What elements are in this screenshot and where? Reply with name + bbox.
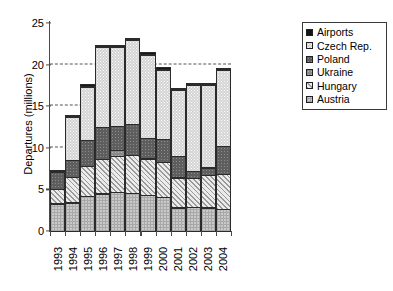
- x-axis-label-text: 2002: [187, 247, 199, 271]
- bar-segment[interactable]: [110, 192, 125, 232]
- bar-segment[interactable]: [125, 40, 140, 125]
- bar-column[interactable]: [50, 23, 65, 231]
- bar-segment[interactable]: [110, 156, 125, 193]
- bar-segment[interactable]: [156, 162, 171, 198]
- bar-segment[interactable]: [95, 127, 110, 160]
- bar-segment[interactable]: [65, 160, 80, 177]
- stacked-bar[interactable]: [140, 49, 155, 231]
- bar-column[interactable]: [171, 23, 186, 231]
- bar-segment[interactable]: [65, 117, 80, 161]
- bar-segment[interactable]: [201, 85, 216, 168]
- x-tick-mark: [50, 231, 65, 236]
- bar-segment[interactable]: [140, 55, 155, 139]
- bar-segment[interactable]: [186, 178, 201, 208]
- bar-segment[interactable]: [95, 194, 110, 232]
- legend-item[interactable]: Austria: [306, 92, 383, 105]
- x-axis-label: 2001: [171, 237, 186, 287]
- bar-column[interactable]: [65, 23, 80, 231]
- bar-segment[interactable]: [156, 197, 171, 232]
- stacked-bar[interactable]: [186, 80, 201, 231]
- bar-segment[interactable]: [140, 138, 155, 160]
- bar-segment[interactable]: [186, 85, 201, 172]
- bar-segment[interactable]: [140, 159, 155, 196]
- stacked-bar[interactable]: [125, 35, 140, 231]
- bar-segment[interactable]: [110, 47, 125, 127]
- x-axis-label-text: 1993: [52, 247, 64, 271]
- x-axis-label: 1995: [80, 237, 95, 287]
- bar-segment[interactable]: [201, 175, 216, 208]
- bar-column[interactable]: [140, 23, 155, 231]
- bar-segment[interactable]: [140, 195, 155, 232]
- stacked-bar[interactable]: [171, 85, 186, 231]
- bar-segment[interactable]: [80, 196, 95, 232]
- legend-item[interactable]: Poland: [306, 53, 383, 66]
- x-axis-label-text: 1994: [67, 247, 79, 271]
- bar-segment[interactable]: [186, 207, 201, 232]
- legend-item[interactable]: Czech Rep.: [306, 39, 383, 52]
- bar-segment[interactable]: [216, 174, 231, 210]
- bar-segment[interactable]: [125, 193, 140, 232]
- bar-segment[interactable]: [125, 155, 140, 193]
- bar-segment[interactable]: [80, 87, 95, 141]
- bar-segment[interactable]: [125, 124, 140, 156]
- stacked-bar[interactable]: [110, 40, 125, 231]
- bar-segment[interactable]: [216, 146, 231, 175]
- x-axis-label-text: 2001: [172, 247, 184, 271]
- bar-segment[interactable]: [80, 166, 95, 197]
- x-axis-label-text: 2004: [217, 247, 229, 271]
- stacked-bar[interactable]: [156, 64, 171, 231]
- stacked-bar[interactable]: [80, 81, 95, 231]
- stacked-bar[interactable]: [65, 112, 80, 231]
- x-tick-mark: [171, 231, 186, 236]
- x-axis-label: 1998: [125, 237, 140, 287]
- bar-segment[interactable]: [171, 156, 186, 178]
- bar-column[interactable]: [201, 23, 216, 231]
- x-axis-label-text: 1998: [127, 247, 139, 271]
- bar-segment[interactable]: [171, 208, 186, 232]
- bar-segment[interactable]: [201, 208, 216, 232]
- x-axis-label: 1997: [110, 237, 125, 287]
- bar-segment[interactable]: [216, 209, 231, 231]
- legend-swatch-icon: [306, 56, 313, 63]
- x-axis-label: 2004: [216, 237, 231, 287]
- bar-column[interactable]: [156, 23, 171, 231]
- legend-swatch-icon: [306, 69, 313, 76]
- legend-item[interactable]: Hungary: [306, 79, 383, 92]
- bar-segment[interactable]: [95, 159, 110, 194]
- plot-area: 0510152025: [50, 23, 231, 231]
- bar-column[interactable]: [95, 23, 110, 231]
- bar-segment[interactable]: [65, 203, 80, 232]
- bar-segment[interactable]: [50, 172, 65, 190]
- bar-segment[interactable]: [50, 204, 65, 232]
- bar-segment[interactable]: [216, 70, 231, 147]
- x-axis-label-text: 1999: [142, 247, 154, 271]
- stacked-bar[interactable]: [201, 80, 216, 231]
- x-tick-mark: [156, 231, 171, 236]
- y-tick-label: 20: [32, 59, 50, 71]
- legend-item[interactable]: Ukraine: [306, 66, 383, 79]
- legend-item[interactable]: Airports: [306, 26, 383, 39]
- stacked-bar[interactable]: [50, 168, 65, 231]
- bar-segment[interactable]: [65, 177, 80, 204]
- bar-column[interactable]: [110, 23, 125, 231]
- bar-column[interactable]: [186, 23, 201, 231]
- bar-segment[interactable]: [50, 189, 65, 204]
- bar-segment[interactable]: [95, 47, 110, 128]
- bar-segment[interactable]: [156, 70, 171, 141]
- bar-segment[interactable]: [110, 126, 125, 151]
- legend-swatch-icon: [306, 96, 313, 103]
- bar-segment[interactable]: [171, 90, 186, 157]
- x-tick-mark: [186, 231, 201, 236]
- stacked-bar[interactable]: [95, 41, 110, 231]
- legend-swatch-icon: [306, 42, 313, 49]
- stacked-bar[interactable]: [216, 65, 231, 231]
- bar-column[interactable]: [80, 23, 95, 231]
- bar-column[interactable]: [216, 23, 231, 231]
- bar-segment[interactable]: [171, 178, 186, 209]
- x-axis-label: 1994: [65, 237, 80, 287]
- bar-segment[interactable]: [80, 140, 95, 167]
- legend-item-label: Airports: [317, 27, 353, 38]
- bar-column[interactable]: [125, 23, 140, 231]
- bar-segment[interactable]: [156, 139, 171, 162]
- y-tick-label: 25: [32, 17, 50, 29]
